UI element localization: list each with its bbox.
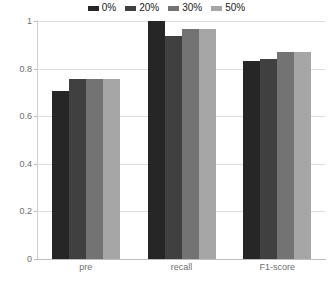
bar[interactable] [103,79,120,259]
legend-label-0: 0% [102,3,116,13]
legend-item-0[interactable]: 0% [88,3,116,13]
legend-swatch-50-icon [211,6,222,11]
bar[interactable] [69,79,86,259]
legend-item-50[interactable]: 50% [211,3,245,13]
bar[interactable] [148,21,165,259]
legend-label-50: 50% [225,3,245,13]
bar[interactable] [243,61,260,259]
y-axis-tick-label: 0.2 [0,207,32,216]
bar[interactable] [277,52,294,259]
x-axis-labels: prerecallF1-score [38,262,325,272]
legend-label-20: 20% [139,3,159,13]
x-axis-line [37,259,326,260]
bar[interactable] [294,52,311,259]
legend-item-20[interactable]: 20% [125,3,159,13]
legend-swatch-0-icon [88,6,99,11]
bar-groups [38,21,325,259]
bar[interactable] [199,29,216,259]
bar[interactable] [182,29,199,259]
bar-chart: 0% 20% 30% 50% 10.80.60.40.20 prerecallF… [0,0,333,285]
y-axis-tick-label: 1 [0,17,32,26]
x-axis-tick-label: pre [38,262,134,272]
legend-label-30: 30% [182,3,202,13]
bar[interactable] [86,79,103,259]
legend-item-30[interactable]: 30% [168,3,202,13]
bar[interactable] [52,91,69,259]
chart-legend: 0% 20% 30% 50% [0,3,333,13]
y-axis-tick-label: 0.4 [0,160,32,169]
x-axis-tick-label: F1-score [229,262,325,272]
bar[interactable] [260,59,277,259]
bar-group [38,21,134,259]
bar[interactable] [165,36,182,259]
y-axis-tick-label: 0 [0,255,32,264]
legend-swatch-20-icon [125,6,136,11]
bar-group [229,21,325,259]
x-axis-tick-label: recall [134,262,230,272]
legend-swatch-30-icon [168,6,179,11]
y-axis-tick-label: 0.8 [0,65,32,74]
y-axis-tick-label: 0.6 [0,112,32,121]
bar-group [134,21,230,259]
